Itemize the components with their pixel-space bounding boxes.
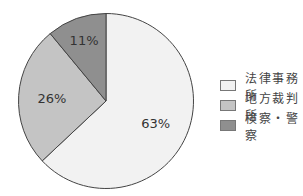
slice-label: 26% xyxy=(37,91,66,106)
legend-label: 検察・警察 xyxy=(245,109,303,143)
legend-swatch-law-office xyxy=(220,80,236,91)
legend: 法律事務所 地方裁判所 検察・警察 xyxy=(220,77,303,137)
slice-label: 63% xyxy=(141,116,170,131)
legend-swatch-prosecution-police xyxy=(220,120,236,131)
legend-swatch-district-court xyxy=(220,100,236,111)
legend-item-prosecution-police: 検察・警察 xyxy=(220,117,303,134)
slice-label: 11% xyxy=(70,33,99,48)
